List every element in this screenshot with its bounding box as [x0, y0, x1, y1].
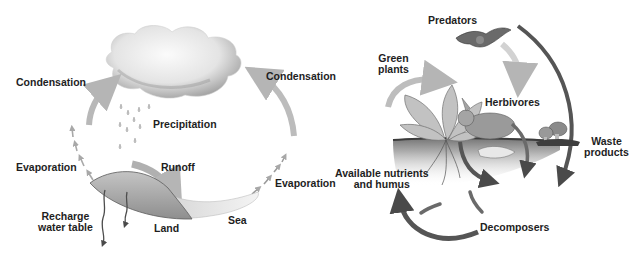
worm-icon — [421, 204, 440, 213]
condensation-arrow-right — [260, 76, 294, 136]
label-green-line2: plants — [378, 64, 409, 75]
label-green-plants: Green plants — [378, 53, 409, 75]
diagram-canvas: Condensation Condensation Precipitation … — [0, 0, 637, 268]
label-waste-products: Waste products — [584, 136, 629, 158]
cloud — [106, 26, 241, 99]
land — [90, 172, 192, 219]
condensation-arrow-left — [89, 86, 108, 125]
label-runoff: Runoff — [161, 162, 195, 173]
label-land: Land — [154, 223, 179, 234]
label-available-nutrients: Available nutrients and humus — [335, 168, 429, 190]
raindrops-icon — [119, 104, 150, 149]
worm-icon — [470, 192, 482, 212]
label-sea: Sea — [228, 215, 247, 226]
label-recharge-water-table: Recharge water table — [38, 211, 93, 233]
label-predators: Predators — [428, 15, 477, 26]
label-herbivores: Herbivores — [485, 97, 540, 108]
label-condensation-left: Condensation — [16, 77, 86, 88]
label-condensation-right: Condensation — [266, 71, 336, 82]
label-precipitation: Precipitation — [153, 119, 217, 130]
label-nutrients-line2: and humus — [335, 179, 429, 190]
label-evaporation-right: Evaporation — [275, 178, 336, 189]
label-recharge-line2: water table — [38, 222, 93, 233]
label-decomposers: Decomposers — [480, 222, 549, 233]
label-evaporation-left: Evaporation — [16, 162, 77, 173]
label-waste-line2: products — [584, 147, 629, 158]
recharge-arrow-1 — [102, 190, 105, 244]
predators-to-herbivores-arrow — [502, 44, 519, 80]
